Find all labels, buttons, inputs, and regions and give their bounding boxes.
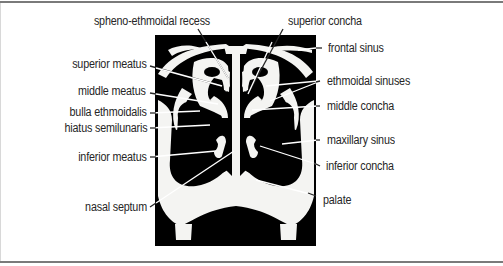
label-frontal-sinus: frontal sinus bbox=[328, 41, 384, 55]
label-nasal-septum: nasal septum bbox=[85, 200, 147, 214]
label-bulla-ethmoidalis: bulla ethmoidalis bbox=[70, 105, 147, 119]
label-inferior-meatus: inferior meatus bbox=[78, 150, 147, 164]
label-middle-concha: middle concha bbox=[327, 99, 394, 113]
label-middle-meatus: middle meatus bbox=[78, 84, 146, 98]
label-superior-concha: superior concha bbox=[288, 14, 362, 28]
label-superior-meatus: superior meatus bbox=[73, 57, 147, 71]
label-palate: palate bbox=[323, 193, 351, 207]
label-spheno-ethmoidal-recess: spheno-ethmoidal recess bbox=[94, 14, 210, 28]
label-inferior-concha: inferior concha bbox=[326, 159, 394, 173]
label-ethmoidal-sinuses: ethmoidal sinuses bbox=[327, 74, 410, 88]
label-maxillary-sinus: maxillary sinus bbox=[327, 133, 395, 147]
label-hiatus-semilunaris: hiatus semilunaris bbox=[64, 121, 147, 135]
